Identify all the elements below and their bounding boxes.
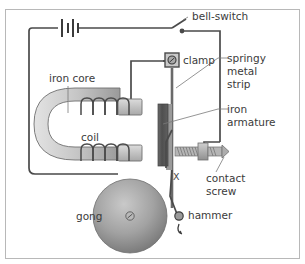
label-clamp: clamp bbox=[183, 54, 215, 66]
label-iron-core: iron core bbox=[49, 72, 95, 84]
clamp-icon bbox=[165, 53, 179, 67]
label-contact: contact bbox=[206, 172, 245, 184]
hammer-head bbox=[175, 212, 183, 220]
label-metal: metal bbox=[227, 65, 257, 77]
label-armature: armature bbox=[227, 116, 276, 128]
bell-diagram-svg: bell-switch clamp springy metal strip ir… bbox=[0, 0, 305, 264]
label-bell-switch: bell-switch bbox=[192, 10, 248, 22]
pole-block-top bbox=[118, 99, 142, 115]
label-springy: springy bbox=[227, 52, 266, 64]
label-strip: strip bbox=[227, 78, 251, 90]
pole-block-bottom bbox=[118, 145, 142, 161]
label-x-marker: X bbox=[173, 171, 180, 182]
label-iron: iron bbox=[227, 103, 247, 115]
label-screw: screw bbox=[206, 185, 237, 197]
label-hammer: hammer bbox=[188, 209, 233, 221]
bell-diagram-figure: bell-switch clamp springy metal strip ir… bbox=[0, 0, 305, 264]
label-gong: gong bbox=[76, 210, 102, 222]
label-coil: coil bbox=[81, 131, 99, 143]
